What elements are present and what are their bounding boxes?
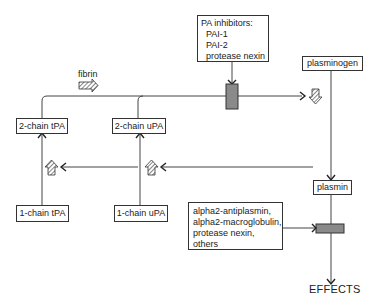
plasmin-inhibitors-box: alpha2-antiplasmin, alpha2-macroglobulin… — [188, 202, 283, 250]
pa-inhibitor-item: PAI-1 — [201, 29, 265, 40]
plasmin-inhibitor-item: alpha2-antiplasmin, — [193, 206, 278, 217]
pa-inhibition-bar — [226, 84, 238, 109]
conversion-hatched-arrow-icon — [309, 89, 322, 104]
two-chain-tpa-box: 2-chain tPA — [16, 118, 68, 134]
upa-hatched-up-arrow-icon — [145, 160, 158, 175]
pa-inhibitor-item: protease nexin — [201, 51, 265, 62]
upa-branch-line — [138, 96, 143, 118]
two-chain-upa-box: 2-chain uPA — [112, 118, 166, 134]
pa-inhibitors-title: PA inhibitors: — [201, 18, 265, 29]
pathway-connectors — [0, 0, 371, 302]
fibrin-hatched-arrow-icon — [79, 79, 98, 92]
plasmin-inhibitor-item: protease nexin, — [193, 228, 278, 239]
plasmin-inhibition-bar — [316, 224, 344, 233]
plasmin-inhibitor-item: others — [193, 239, 278, 250]
plasmin-box: plasmin — [313, 180, 352, 195]
activator-line — [42, 96, 302, 118]
plasminogen-box: plasminogen — [302, 56, 363, 71]
effects-label: EFFECTS — [309, 284, 361, 295]
pa-inhibitors-box: PA inhibitors: PAI-1 PAI-2 protease nexi… — [197, 15, 269, 62]
fibrin-label: fibrin — [78, 69, 98, 80]
one-chain-tpa-box: 1-chain tPA — [16, 205, 69, 222]
plasmin-inhibitor-item: alpha2-macroglobulin, — [193, 217, 278, 228]
one-chain-upa-box: 1-chain uPA — [114, 205, 168, 222]
pa-inhibitor-item: PAI-2 — [201, 40, 265, 51]
tpa-hatched-up-arrow-icon — [45, 160, 58, 175]
